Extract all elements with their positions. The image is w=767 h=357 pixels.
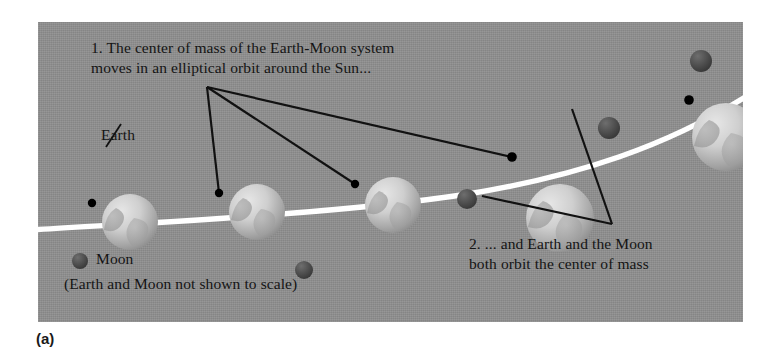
annotation-note-1: 1. The center of mass of the Earth-Moon … [91, 38, 394, 78]
subfigure-label: (a) [36, 330, 54, 347]
center-of-mass-dot-2 [215, 189, 223, 197]
earth-body-2 [229, 184, 285, 240]
earth-label: Earth [101, 125, 135, 145]
center-of-mass-dot-5 [684, 95, 694, 105]
moon-body-4 [690, 50, 712, 72]
earth-body-5 [692, 103, 743, 171]
scale-note: (Earth and Moon not shown to scale) [64, 274, 297, 294]
moon-label: Moon [96, 249, 133, 269]
figure-panel: 1. The center of mass of the Earth-Moon … [38, 22, 743, 322]
moon-legend-swatch [71, 252, 89, 270]
annotation-note-2-line-1: 2. ... and Earth and the Moon [469, 235, 653, 252]
moon-body-1 [295, 261, 313, 279]
annotation-note-1-line-1: 1. The center of mass of the Earth-Moon … [91, 39, 394, 56]
moon-body-2 [457, 189, 477, 209]
leader-line-n1-c [207, 87, 512, 157]
annotation-note-2: 2. ... and Earth and the Moon both orbit… [469, 234, 653, 274]
leader-line-n1-a [207, 87, 219, 193]
annotation-note-2-line-2: both orbit the center of mass [469, 255, 649, 272]
center-of-mass-dot-3 [351, 180, 359, 188]
moon-body-3 [598, 117, 620, 139]
leader-line-n1-b [207, 87, 355, 184]
annotation-note-1-line-2: moves in an elliptical orbit around the … [91, 59, 371, 76]
earth-body-1 [102, 194, 158, 250]
center-of-mass-dot-4 [507, 152, 517, 162]
leader-lines-note-1 [207, 87, 512, 193]
figure-root: 1. The center of mass of the Earth-Moon … [0, 0, 767, 357]
center-of-mass-dot-1 [88, 199, 96, 207]
earth-body-3 [365, 177, 421, 233]
